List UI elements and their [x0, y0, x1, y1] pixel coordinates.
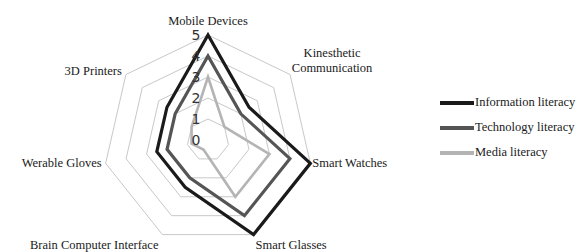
tick-label: 1: [192, 111, 201, 127]
radial-tick-labels: 012345: [192, 27, 201, 148]
axis-label: KinestheticCommunication: [292, 46, 373, 75]
legend-swatch: [440, 151, 474, 155]
legend-item-media-literacy: Media literacy: [440, 140, 575, 165]
legend-swatch: [440, 126, 474, 130]
legend-item-information-literacy: Information literacy: [440, 90, 575, 115]
axis-label: Mobile Devices: [168, 14, 248, 28]
legend-swatch: [440, 101, 474, 105]
series-technology-literacy: [167, 56, 290, 216]
legend-item-technology-literacy: Technology literacy: [440, 115, 575, 140]
legend-label: Technology literacy: [475, 120, 574, 135]
tick-label: 2: [192, 90, 201, 106]
legend-label: Information literacy: [475, 95, 575, 110]
tick-label: 0: [192, 132, 201, 148]
axis-label: Smart Watches: [312, 156, 387, 170]
legend: Information literacy Technology literacy…: [440, 90, 575, 165]
series-information-literacy: [157, 35, 311, 235]
axis-label: Smart Glasses: [256, 238, 327, 252]
radar-series: [157, 35, 311, 235]
axis-label: 3D Printers: [65, 64, 122, 78]
tick-label: 4: [192, 48, 201, 64]
axis-label: Brain Computer Interface: [30, 238, 159, 252]
tick-label: 3: [192, 69, 201, 85]
tick-label: 5: [192, 27, 201, 43]
legend-label: Media literacy: [475, 145, 548, 160]
axis-label: Werable Gloves: [22, 156, 102, 170]
